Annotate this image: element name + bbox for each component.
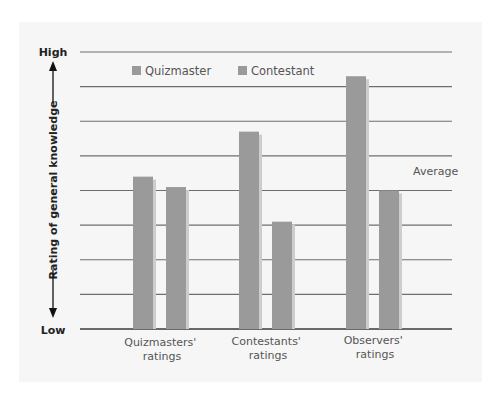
category-label-line: Contestants' xyxy=(232,335,301,348)
category-label-observers: Observers' ratings xyxy=(344,334,407,361)
bars xyxy=(133,76,402,329)
bar-quizmaster-1 xyxy=(133,177,153,329)
average-annotation: Average xyxy=(413,165,458,178)
arrow-down-icon xyxy=(49,308,57,318)
bar-chart: Quizmaster Contestant Average High Ratin… xyxy=(0,0,501,404)
category-label-line: ratings xyxy=(249,349,288,362)
legend-swatch-quizmaster xyxy=(132,66,141,75)
axis-title: Rating of general knowledge xyxy=(47,100,60,279)
legend-label-contestant: Contestant xyxy=(251,64,315,78)
legend-swatch-contestant xyxy=(238,66,247,75)
axis-high-label: High xyxy=(39,46,68,59)
y-axis: High Rating of general knowledge Low xyxy=(39,46,68,337)
x-axis-labels: Quizmasters' ratings Contestants' rating… xyxy=(124,334,406,363)
category-label-contestants: Contestants' ratings xyxy=(232,335,305,362)
legend: Quizmaster Contestant xyxy=(132,64,315,78)
category-label-line: ratings xyxy=(356,348,395,361)
bar-contestant-1 xyxy=(166,187,186,329)
category-label-line: Quizmasters' xyxy=(124,336,196,349)
bar-contestant-2 xyxy=(272,222,292,329)
bar-contestant-3 xyxy=(379,191,399,330)
arrow-up-icon xyxy=(49,61,57,71)
category-label-line: Observers' xyxy=(344,334,403,347)
legend-label-quizmaster: Quizmaster xyxy=(145,64,211,78)
bar-quizmaster-3 xyxy=(346,76,366,329)
bar-quizmaster-2 xyxy=(239,132,259,329)
category-label-line: ratings xyxy=(143,350,182,363)
axis-low-label: Low xyxy=(41,324,66,337)
category-label-quizmasters: Quizmasters' ratings xyxy=(124,336,200,363)
